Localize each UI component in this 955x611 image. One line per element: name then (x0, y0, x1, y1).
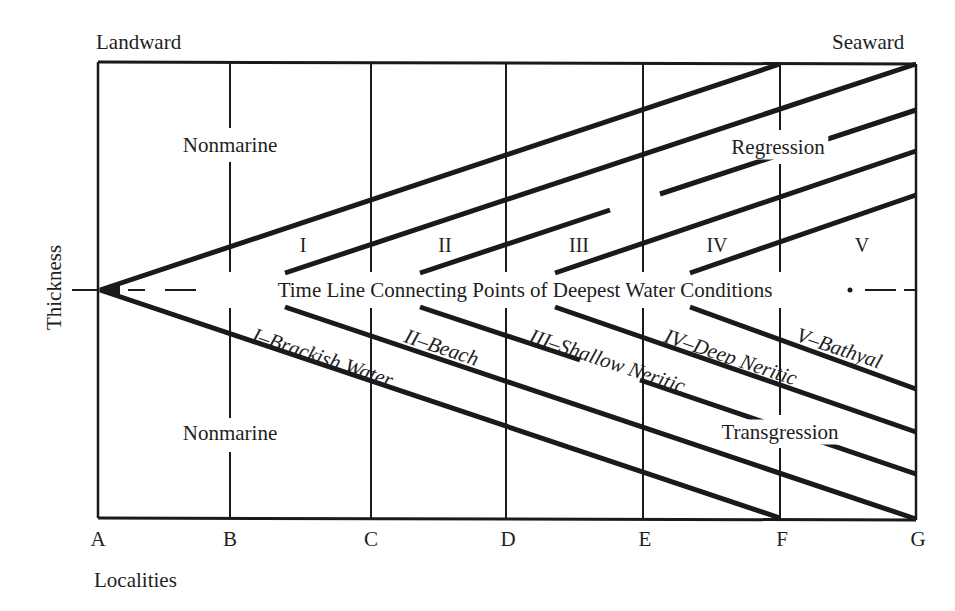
stratigraphy-diagram: Landward Seaward Thickness Nonmarine Non… (0, 0, 955, 611)
locality-c-label: C (364, 527, 378, 552)
locality-g-label: G (910, 527, 925, 552)
regression-label: Regression (727, 135, 828, 160)
locality-d-label: D (500, 527, 515, 552)
zone-v-label: V (855, 234, 869, 257)
locality-b-label: B (223, 527, 237, 552)
localities-axis-label: Localities (94, 568, 177, 593)
zone-ii-label: II (438, 234, 451, 257)
zone-i-label: I (300, 234, 307, 257)
transgression-lines (100, 290, 916, 519)
upper-nonmarine-label: Nonmarine (179, 133, 281, 158)
locality-e-label: E (639, 527, 652, 552)
regression-lines (100, 64, 916, 290)
diagram-graphics (0, 0, 955, 611)
transgression-label: Transgression (717, 420, 842, 445)
time-line-label: Time Line Connecting Points of Deepest W… (272, 278, 779, 303)
zone-iii-label: III (569, 234, 589, 257)
thickness-axis-label: Thickness (42, 245, 67, 330)
locality-a-label: A (90, 527, 105, 552)
landward-label: Landward (96, 30, 181, 55)
seaward-label: Seaward (832, 30, 904, 55)
lower-nonmarine-label: Nonmarine (179, 421, 281, 446)
zone-iv-label: IV (706, 234, 727, 257)
locality-f-label: F (776, 527, 788, 552)
